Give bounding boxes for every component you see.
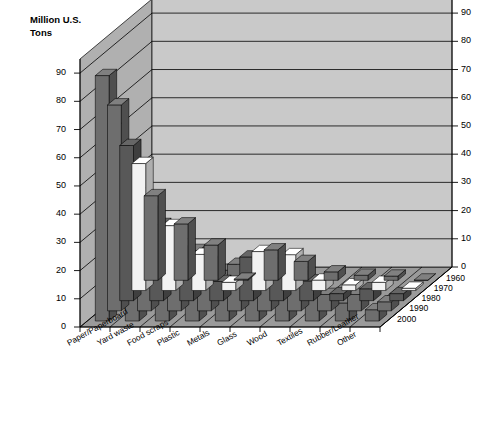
y-axis-tick-right-60: 60 xyxy=(461,93,487,102)
depth-axis-label-1990: 1990 xyxy=(409,303,428,313)
y-axis-tick-left-90: 90 xyxy=(40,68,66,77)
depth-axis-label-2000: 2000 xyxy=(397,314,416,324)
depth-axis-label-1970: 1970 xyxy=(434,283,453,293)
y-axis-tick-left-60: 60 xyxy=(40,153,66,162)
y-axis-tick-right-0: 0 xyxy=(461,262,487,271)
depth-axis-label-1980: 1980 xyxy=(421,293,440,303)
y-axis-tick-right-70: 70 xyxy=(461,65,487,74)
y-axis-tick-left-50: 50 xyxy=(40,181,66,190)
depth-axis-label-1960: 1960 xyxy=(446,273,465,283)
y-axis-tick-right-20: 20 xyxy=(461,206,487,215)
y-axis-tick-right-30: 30 xyxy=(461,177,487,186)
y-axis-tick-left-40: 40 xyxy=(40,209,66,218)
y-axis-tick-left-70: 70 xyxy=(40,125,66,134)
chart-3d-bar: Changes in Composition of Municipal Soli… xyxy=(0,0,491,443)
y-axis-tick-left-10: 10 xyxy=(40,294,66,303)
y-axis-tick-left-30: 30 xyxy=(40,237,66,246)
y-axis-tick-right-10: 10 xyxy=(461,234,487,243)
y-axis-tick-right-90: 90 xyxy=(461,8,487,17)
y-axis-tick-left-80: 80 xyxy=(40,96,66,105)
chart-scene xyxy=(0,0,491,443)
y-axis-tick-left-0: 0 xyxy=(40,322,66,331)
y-axis-tick-left-20: 20 xyxy=(40,266,66,275)
y-axis-tick-right-50: 50 xyxy=(461,121,487,130)
y-axis-tick-right-40: 40 xyxy=(461,149,487,158)
y-axis-tick-right-80: 80 xyxy=(461,36,487,45)
